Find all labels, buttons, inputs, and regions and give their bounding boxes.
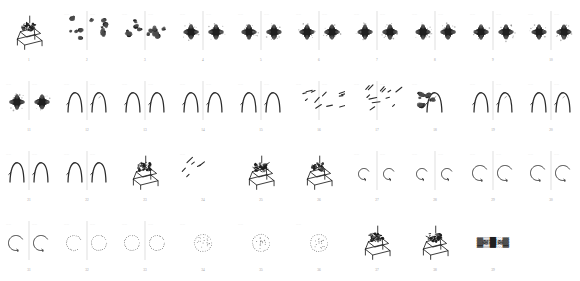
thumbnail-cell[interactable]: ——24 [174, 140, 232, 210]
svg-text:——: —— [495, 153, 501, 156]
thumbnail-cell[interactable]: ————21 [0, 140, 58, 210]
svg-text:——: —— [205, 13, 211, 16]
thumbnail-image-18[interactable]: —— [409, 78, 461, 126]
thumbnail-image-2[interactable]: ———— [61, 8, 113, 56]
thumbnail-image-21[interactable]: ———— [3, 148, 55, 196]
thumbnail-image-4[interactable]: ———— [177, 8, 229, 56]
thumbnail-image-14[interactable]: ———— [177, 78, 229, 126]
thumbnail-cell[interactable]: ————14 [174, 70, 232, 140]
thumbnail-cell[interactable]: ————33 [116, 210, 174, 280]
thumbnail-image-19[interactable]: ———— [467, 78, 519, 126]
thumbnail-image-22[interactable]: ———— [61, 148, 113, 196]
thumbnail-cell[interactable]: ——36 [290, 210, 348, 280]
thumbnail-image-38[interactable] [409, 218, 461, 266]
thumbnail-cell[interactable]: ————15 [232, 70, 290, 140]
thumbnail-image-7[interactable]: ———— [351, 8, 403, 56]
thumbnail-cell[interactable]: ——34 [174, 210, 232, 280]
thumbnail-caption: 37 [348, 268, 406, 272]
thumbnail-cell[interactable]: ————22 [58, 140, 116, 210]
thumbnail-caption: 12 [58, 128, 116, 132]
thumbnail-image-5[interactable]: ———— [235, 8, 287, 56]
thumbnail-cell[interactable]: ————4 [174, 0, 232, 70]
thumbnail-cell[interactable]: 1 [0, 0, 58, 70]
thumbnail-caption: 35 [232, 268, 290, 272]
thumbnail-image-11[interactable]: ———— [3, 78, 55, 126]
thumbnail-cell[interactable]: ————20 [522, 70, 580, 140]
thumbnail-cell[interactable]: 25 [232, 140, 290, 210]
svg-text:——: —— [527, 153, 533, 156]
thumbnail-image-25[interactable] [235, 148, 287, 196]
thumbnail-caption: 14 [174, 128, 232, 132]
thumbnail-caption: 9 [464, 58, 522, 62]
thumbnail-image-26[interactable] [293, 148, 345, 196]
thumbnail-cell[interactable]: ————2 [58, 0, 116, 70]
thumbnail-image-33[interactable]: ———— [119, 218, 171, 266]
thumbnail-cell[interactable]: 38 [406, 210, 464, 280]
thumbnail-grid: 1————2————3————4————5————6————7————8————… [0, 0, 580, 281]
svg-text:——: —— [5, 223, 11, 226]
thumbnail-cell[interactable]: ————8 [406, 0, 464, 70]
thumbnail-cell[interactable]: ————19 [464, 70, 522, 140]
thumbnail-image-15[interactable]: ———— [235, 78, 287, 126]
svg-text:——: —— [237, 223, 243, 226]
thumbnail-cell[interactable]: 37 [348, 210, 406, 280]
thumbnail-cell[interactable]: ————16 [290, 70, 348, 140]
thumbnail-image-10[interactable]: ———— [525, 8, 577, 56]
thumbnail-image-8[interactable]: ———— [409, 8, 461, 56]
thumbnail-cell[interactable]: ————11 [0, 70, 58, 140]
thumbnail-caption: 36 [290, 268, 348, 272]
thumbnail-image-36[interactable]: —— [293, 218, 345, 266]
thumbnail-caption: 23 [116, 198, 174, 202]
thumbnail-caption: 5 [232, 58, 290, 62]
thumbnail-cell[interactable]: ————27 [348, 140, 406, 210]
thumbnail-caption: 16 [290, 128, 348, 132]
thumbnail-cell[interactable]: ————30 [522, 140, 580, 210]
thumbnail-cell[interactable]: ————31 [0, 210, 58, 280]
thumbnail-image-6[interactable]: ———— [293, 8, 345, 56]
thumbnail-cell[interactable]: ————17 [348, 70, 406, 140]
thumbnail-cell[interactable]: ————3 [116, 0, 174, 70]
thumbnail-image-27[interactable]: ———— [351, 148, 403, 196]
thumbnail-image-23[interactable] [119, 148, 171, 196]
thumbnail-caption: 8 [406, 58, 464, 62]
svg-text:——: —— [411, 13, 417, 16]
thumbnail-image-35[interactable]: —— [235, 218, 287, 266]
thumbnail-image-29[interactable]: ———— [467, 148, 519, 196]
thumbnail-image-3[interactable]: ———— [119, 8, 171, 56]
thumbnail-image-9[interactable]: ———— [467, 8, 519, 56]
thumbnail-image-16[interactable]: ———— [293, 78, 345, 126]
thumbnail-image-12[interactable]: ———— [61, 78, 113, 126]
thumbnail-cell[interactable]: ————5 [232, 0, 290, 70]
thumbnail-image-17[interactable]: ———— [351, 78, 403, 126]
thumbnail-cell[interactable]: 23 [116, 140, 174, 210]
thumbnail-cell[interactable]: ————29 [464, 140, 522, 210]
thumbnail-image-28[interactable]: ———— [409, 148, 461, 196]
thumbnail-image-31[interactable]: ———— [3, 218, 55, 266]
thumbnail-cell[interactable]: ————7 [348, 0, 406, 70]
thumbnail-cell[interactable]: ▓▒█░▓≋≡⦀≋39 [464, 210, 522, 280]
thumbnail-cell[interactable]: ————32 [58, 210, 116, 280]
thumbnail-caption: 11 [0, 128, 58, 132]
svg-text:——: —— [353, 83, 359, 86]
thumbnail-cell[interactable]: ——18 [406, 70, 464, 140]
thumbnail-cell[interactable]: ————13 [116, 70, 174, 140]
thumbnail-cell[interactable]: ————10 [522, 0, 580, 70]
svg-text:——: —— [411, 153, 417, 156]
thumbnail-caption: 3 [116, 58, 174, 62]
thumbnail-image-1[interactable] [3, 8, 55, 56]
thumbnail-image-13[interactable]: ———— [119, 78, 171, 126]
thumbnail-cell[interactable]: ————28 [406, 140, 464, 210]
thumbnail-cell[interactable]: ————6 [290, 0, 348, 70]
svg-text:——: —— [237, 83, 243, 86]
thumbnail-image-30[interactable]: ———— [525, 148, 577, 196]
thumbnail-cell[interactable]: ————9 [464, 0, 522, 70]
thumbnail-image-24[interactable]: —— [177, 148, 229, 196]
thumbnail-cell[interactable]: ————12 [58, 70, 116, 140]
thumbnail-cell[interactable]: ——35 [232, 210, 290, 280]
thumbnail-image-20[interactable]: ———— [525, 78, 577, 126]
thumbnail-image-34[interactable]: —— [177, 218, 229, 266]
thumbnail-cell[interactable]: 26 [290, 140, 348, 210]
thumbnail-image-32[interactable]: ———— [61, 218, 113, 266]
thumbnail-image-37[interactable] [351, 218, 403, 266]
thumbnail-image-39[interactable]: ▓▒█░▓≋≡⦀≋ [467, 218, 519, 266]
